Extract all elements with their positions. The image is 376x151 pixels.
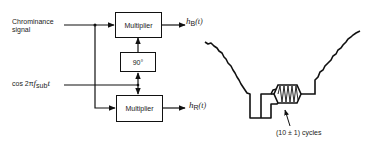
waveform-trace — [205, 42, 284, 118]
bottom-output-arg: (t) — [199, 101, 207, 110]
chrominance-label-line2: signal — [12, 26, 54, 34]
top-output-label: hB(t) — [186, 10, 203, 28]
junction-dot — [94, 24, 97, 27]
carrier-label: cos 2πfsubt — [12, 79, 50, 90]
carrier-prefix: cos 2π — [12, 80, 34, 87]
top-multiplier-label: Multiplier — [124, 22, 152, 29]
phase-shift-label: 90° — [133, 59, 144, 66]
top-multiplier-block: Multiplier — [115, 12, 162, 38]
burst-annotation: (10 ± 1) cycles — [276, 129, 321, 137]
chrominance-branch-wire — [95, 25, 115, 108]
phase-shift-block: 90° — [120, 52, 156, 72]
bottom-output-label: hR(t) — [189, 94, 206, 112]
carrier-junction-dot — [137, 84, 140, 87]
chrominance-label-line1: Chrominance — [12, 18, 54, 26]
chrominance-label: Chrominance signal — [12, 18, 54, 34]
waveform-after-burst — [301, 31, 360, 94]
carrier-t: t — [47, 78, 50, 88]
top-output-arg: (t) — [195, 17, 203, 26]
bottom-multiplier-label: Multiplier — [125, 105, 153, 112]
carrier-sub: sub — [36, 82, 47, 89]
bottom-multiplier-block: Multiplier — [116, 95, 163, 122]
annotation-pointer — [285, 110, 290, 126]
